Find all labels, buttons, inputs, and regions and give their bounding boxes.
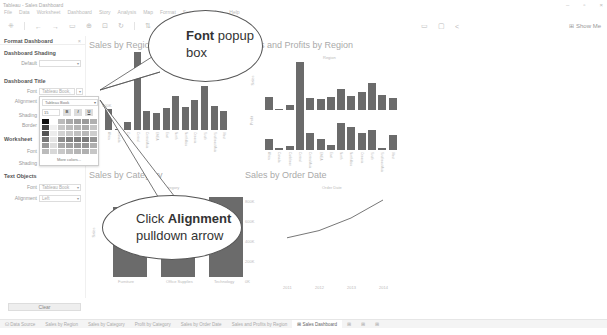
new-dashboard-icon[interactable]: ⊞ xyxy=(356,322,370,327)
bar[interactable] xyxy=(327,97,335,110)
title-font-dropdown-arrow[interactable]: ▾ xyxy=(76,88,83,95)
color-swatch[interactable] xyxy=(74,131,81,136)
bar[interactable] xyxy=(296,62,304,110)
color-swatch[interactable] xyxy=(74,137,81,142)
color-swatch[interactable] xyxy=(82,143,89,148)
swap-icon[interactable]: ⇅ xyxy=(145,22,151,30)
title-font-dropdown[interactable]: Tableau Book, xyxy=(39,88,75,95)
dashboard-shading-dropdown[interactable]: ▾ xyxy=(39,60,81,67)
bar[interactable] xyxy=(153,113,160,130)
text-font-dropdown[interactable]: Tableau Book▾ xyxy=(39,184,81,191)
bar[interactable] xyxy=(306,133,314,150)
undo-icon[interactable]: ← xyxy=(35,23,42,30)
color-swatch[interactable] xyxy=(58,125,65,130)
bar[interactable] xyxy=(317,139,325,150)
bar[interactable] xyxy=(265,97,273,110)
color-swatch[interactable] xyxy=(74,125,81,130)
menu-map[interactable]: Map xyxy=(143,9,153,18)
color-swatch[interactable] xyxy=(42,119,49,124)
color-swatch[interactable] xyxy=(66,149,73,154)
pause-icon[interactable]: ⊡ xyxy=(102,22,108,30)
bar[interactable] xyxy=(368,130,376,150)
color-swatch[interactable] xyxy=(82,131,89,136)
menu-story[interactable]: Story xyxy=(99,9,111,18)
color-swatch[interactable] xyxy=(58,137,65,142)
menu-data[interactable]: Data xyxy=(19,9,30,18)
color-swatch[interactable] xyxy=(42,137,49,142)
sales-by-order-date-chart[interactable]: Order Date 800K600K400K200K0K20112012201… xyxy=(265,185,410,290)
bold-button[interactable]: B xyxy=(63,109,71,116)
bar[interactable] xyxy=(220,111,227,130)
tableau-logo-icon[interactable]: ⁜ xyxy=(8,22,14,30)
bar[interactable] xyxy=(201,86,208,130)
clear-button[interactable]: Clear xyxy=(8,303,81,311)
bar[interactable] xyxy=(134,52,141,130)
bar[interactable] xyxy=(265,139,273,150)
menu-file[interactable]: File xyxy=(4,9,12,18)
color-swatch[interactable] xyxy=(58,119,65,124)
close-icon[interactable]: × xyxy=(599,2,603,8)
bar[interactable] xyxy=(358,133,366,150)
minimize-icon[interactable]: – xyxy=(566,2,569,8)
sales-profits-region-chart[interactable]: Region Sales Profit AfricaCanadaCaribbea… xyxy=(265,58,410,166)
color-swatch[interactable] xyxy=(90,149,97,154)
refresh-icon[interactable]: ↻ xyxy=(118,22,124,30)
close-icon[interactable]: × xyxy=(78,38,81,44)
bar[interactable] xyxy=(211,106,218,130)
color-swatch[interactable] xyxy=(66,143,73,148)
bar[interactable] xyxy=(286,105,294,110)
tab-sales-and-profits-by-region[interactable]: Sales and Profits by Region xyxy=(227,322,293,327)
restore-icon[interactable]: ▫ xyxy=(583,2,585,8)
color-swatch[interactable] xyxy=(42,125,49,130)
bar[interactable] xyxy=(172,96,179,130)
bar[interactable] xyxy=(327,145,335,150)
bar[interactable] xyxy=(368,83,376,110)
underline-button[interactable]: U xyxy=(85,109,93,116)
present-icon[interactable]: ▢ xyxy=(438,22,445,30)
color-swatch[interactable] xyxy=(58,143,65,148)
new-story-icon[interactable]: ⊞ xyxy=(370,322,384,327)
bar[interactable] xyxy=(286,146,294,150)
color-swatch[interactable] xyxy=(50,143,57,148)
new-datasource-icon[interactable]: ⊕ xyxy=(86,22,92,30)
bar[interactable] xyxy=(317,99,325,110)
color-swatch[interactable] xyxy=(90,143,97,148)
tab-data-source[interactable]: ⛁ Data Source xyxy=(0,322,40,327)
bar[interactable] xyxy=(389,98,397,110)
color-swatch[interactable] xyxy=(90,125,97,130)
color-swatch[interactable] xyxy=(90,131,97,136)
color-swatch[interactable] xyxy=(42,149,49,154)
color-swatch[interactable] xyxy=(82,119,89,124)
bar[interactable] xyxy=(296,110,304,150)
color-swatch[interactable] xyxy=(42,143,49,148)
color-swatch[interactable] xyxy=(50,131,57,136)
line-series[interactable] xyxy=(265,185,410,290)
tab-sales-by-region[interactable]: Sales by Region xyxy=(40,322,83,327)
bar[interactable] xyxy=(358,92,366,110)
tab-sales-dashboard[interactable]: ⊞ Sales Dashboard xyxy=(292,320,342,329)
menu-dashboard[interactable]: Dashboard xyxy=(67,9,91,18)
color-swatch[interactable] xyxy=(50,119,57,124)
bar[interactable] xyxy=(275,109,283,110)
bar[interactable] xyxy=(347,96,355,110)
show-me-button[interactable]: ⊞ Show Me xyxy=(569,22,601,29)
tab-profit-by-category[interactable]: Profit by Category xyxy=(130,322,176,327)
tab-sales-by-order-date[interactable]: Sales by Order Date xyxy=(176,322,227,327)
color-swatch[interactable] xyxy=(74,149,81,154)
color-swatch[interactable] xyxy=(50,125,57,130)
bar[interactable] xyxy=(378,148,386,150)
redo-icon[interactable]: → xyxy=(52,23,59,30)
save-icon[interactable]: ▭ xyxy=(69,22,76,30)
bar[interactable] xyxy=(337,123,345,150)
fit-icon[interactable]: ▭ xyxy=(421,22,428,30)
bar[interactable] xyxy=(389,135,397,150)
color-swatch[interactable] xyxy=(42,131,49,136)
tab-sales-by-category[interactable]: Sales by Category xyxy=(83,322,130,327)
font-name-dropdown[interactable]: Tableau Book ▾ xyxy=(42,99,98,106)
color-swatch[interactable] xyxy=(90,137,97,142)
bar[interactable] xyxy=(275,148,283,150)
bar[interactable] xyxy=(163,108,170,130)
italic-button[interactable]: I xyxy=(74,109,82,116)
font-size-dropdown[interactable]: 15 xyxy=(42,109,60,116)
bar[interactable] xyxy=(115,129,122,130)
